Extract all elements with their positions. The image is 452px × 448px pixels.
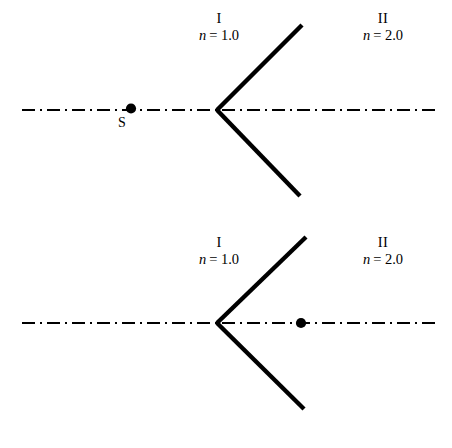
refractive-index-symbol: n	[363, 27, 373, 43]
source-point-top	[126, 103, 136, 113]
medium-two-index-top: n= 2.0	[330, 27, 436, 44]
medium-two-label-bottom: II n= 2.0	[330, 234, 436, 268]
interface-lower-arm-top	[217, 110, 300, 196]
medium-one-index-value-bottom: = 1.0	[209, 251, 239, 267]
diagram-panel-top: I n= 1.0 II n= 2.0 S	[0, 0, 452, 224]
medium-one-index-value-top: = 1.0	[209, 27, 239, 43]
medium-two-roman-bottom: II	[330, 234, 436, 251]
diagram-panel-bottom: I n= 1.0 II n= 2.0 S	[0, 224, 452, 448]
medium-two-roman-top: II	[330, 10, 436, 27]
refractive-index-symbol: n	[199, 251, 209, 267]
medium-two-label-top: II n= 2.0	[330, 10, 436, 44]
refractive-index-symbol: n	[199, 27, 209, 43]
medium-two-index-value-bottom: = 2.0	[373, 251, 403, 267]
medium-one-label-top: I n= 1.0	[166, 10, 272, 44]
source-point-bottom	[296, 318, 306, 328]
source-label-top: S	[118, 116, 126, 130]
medium-two-index-bottom: n= 2.0	[330, 251, 436, 268]
medium-one-roman-top: I	[166, 10, 272, 27]
medium-one-roman-bottom: I	[166, 234, 272, 251]
medium-one-index-top: n= 1.0	[166, 27, 272, 44]
refractive-index-symbol: n	[363, 251, 373, 267]
medium-two-index-value-top: = 2.0	[373, 27, 403, 43]
optics-refraction-figure: I n= 1.0 II n= 2.0 S I n= 1.0 II n= 2.0	[0, 0, 452, 448]
interface-lower-arm-bottom	[217, 323, 304, 409]
medium-one-index-bottom: n= 1.0	[166, 251, 272, 268]
medium-one-label-bottom: I n= 1.0	[166, 234, 272, 268]
